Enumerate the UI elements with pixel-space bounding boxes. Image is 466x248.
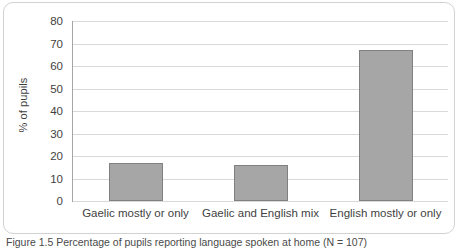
x-axis-category-label: English mostly or only	[330, 207, 442, 219]
gridline	[73, 201, 448, 202]
y-axis-title: % of pupils	[17, 60, 29, 150]
bar	[359, 50, 413, 201]
y-axis-tick-label: 40	[50, 105, 63, 117]
x-axis-category-label: Gaelic and English mix	[202, 207, 319, 219]
bar	[234, 165, 288, 201]
y-axis-tick-label: 60	[50, 60, 63, 72]
y-axis-tick-label: 50	[50, 83, 63, 95]
y-axis-tick-label: 80	[50, 15, 63, 27]
bar-chart: % of pupils 01020304050607080 Gaelic mos…	[4, 3, 454, 233]
figure-caption: Figure 1.5 Percentage of pupils reportin…	[6, 236, 464, 248]
y-axis-tick-label: 20	[50, 150, 63, 162]
y-axis-tick-label: 70	[50, 38, 63, 50]
plot-area: 01020304050607080 Gaelic mostly or onlyG…	[70, 17, 448, 202]
gridline	[73, 44, 448, 45]
x-axis-category-label: Gaelic mostly or only	[82, 207, 189, 219]
figure-container: % of pupils 01020304050607080 Gaelic mos…	[3, 2, 455, 234]
y-axis-tick-label: 0	[57, 195, 63, 207]
bar	[109, 163, 163, 201]
y-axis-tick-label: 30	[50, 128, 63, 140]
y-axis-tick-label: 10	[50, 173, 63, 185]
gridline	[73, 21, 448, 22]
